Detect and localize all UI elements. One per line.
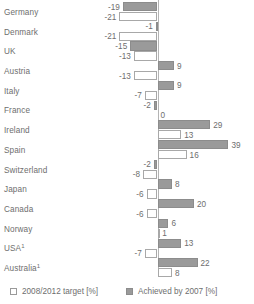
achieved-value-switzerland: -2 bbox=[144, 160, 151, 169]
legend-label-target: 2008/2012 target [%] bbox=[22, 287, 98, 296]
achieved-group: -2 bbox=[0, 101, 254, 110]
achieved-value-ireland: 29 bbox=[213, 120, 222, 129]
achieved-value-italy: 9 bbox=[177, 81, 182, 90]
achieved-group: -15 bbox=[0, 41, 254, 50]
achieved-bar-france bbox=[154, 101, 158, 110]
achieved-value-austria: 9 bbox=[177, 61, 182, 70]
achieved-group: 39 bbox=[0, 140, 254, 149]
achieved-value-denmark: -1 bbox=[145, 22, 152, 31]
achieved-group: 13 bbox=[0, 239, 254, 248]
chart-legend: 2008/2012 target [%] Achieved by 2007 [%… bbox=[0, 282, 254, 300]
achieved-bar-italy bbox=[158, 81, 174, 90]
achieved-value-germany: -19 bbox=[108, 2, 120, 11]
achieved-group: -1 bbox=[0, 22, 254, 31]
achieved-bar-canada bbox=[158, 199, 194, 208]
grouped-bar-chart: Germany-19-21Denmark-1-21UK-15-13Austria… bbox=[0, 0, 254, 304]
achieved-bar-austria bbox=[158, 61, 174, 70]
legend-label-achieved: Achieved by 2007 [%] bbox=[138, 287, 217, 296]
achieved-bar-uk bbox=[130, 41, 157, 50]
plot-area: Germany-19-21Denmark-1-21UK-15-13Austria… bbox=[0, 0, 254, 276]
achieved-group: 9 bbox=[0, 61, 254, 70]
achieved-value-norway: 6 bbox=[171, 219, 176, 228]
target-bar-australia bbox=[158, 268, 173, 277]
achieved-value-australia: 22 bbox=[201, 258, 210, 267]
legend-item-target: 2008/2012 target [%] bbox=[10, 287, 98, 296]
achieved-value-spain: 39 bbox=[231, 140, 240, 149]
achieved-group: 8 bbox=[0, 179, 254, 188]
achieved-bar-australia bbox=[158, 258, 198, 267]
chart-row: Australia1228 bbox=[0, 256, 254, 280]
achieved-group: 9 bbox=[0, 81, 254, 90]
achieved-group: 20 bbox=[0, 199, 254, 208]
target-swatch-icon bbox=[10, 288, 17, 295]
achieved-value-usa: 13 bbox=[184, 239, 193, 248]
target-value-australia: 8 bbox=[175, 268, 180, 277]
achieved-value-canada: 20 bbox=[197, 199, 206, 208]
achieved-value-france: -2 bbox=[144, 101, 151, 110]
achieved-bar-switzerland bbox=[154, 160, 158, 169]
achieved-swatch-icon bbox=[126, 288, 133, 295]
achieved-group: 29 bbox=[0, 120, 254, 129]
achieved-value-uk: -15 bbox=[115, 42, 127, 51]
achieved-bar-germany bbox=[123, 2, 158, 11]
target-group: 8 bbox=[0, 268, 254, 277]
achieved-value-japan: 8 bbox=[175, 180, 180, 189]
achieved-group: -2 bbox=[0, 160, 254, 169]
achieved-bar-japan bbox=[158, 179, 173, 188]
achieved-bar-norway bbox=[158, 219, 169, 228]
achieved-group: 6 bbox=[0, 219, 254, 228]
achieved-group: 22 bbox=[0, 258, 254, 267]
achieved-bar-denmark bbox=[156, 22, 158, 31]
achieved-bar-spain bbox=[158, 140, 229, 149]
achieved-bar-ireland bbox=[158, 120, 211, 129]
legend-item-achieved: Achieved by 2007 [%] bbox=[126, 287, 217, 296]
achieved-group: -19 bbox=[0, 2, 254, 11]
achieved-bar-usa bbox=[158, 239, 182, 248]
